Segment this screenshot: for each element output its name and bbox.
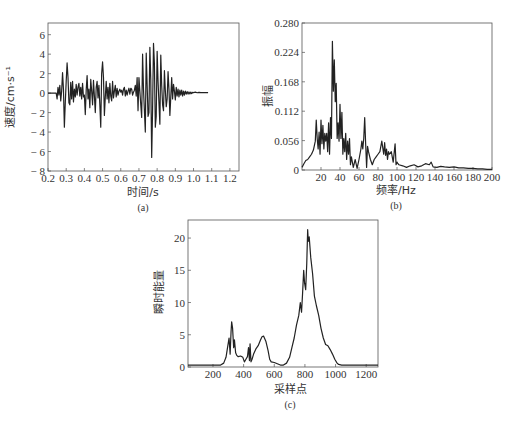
chart-b-ylabel: 振幅 xyxy=(261,85,275,107)
chart-c-xlabel: 采样点 xyxy=(274,382,307,396)
chart-a-x-tick-label: 0.5 xyxy=(96,172,110,184)
chart-c-caption: (c) xyxy=(284,399,295,411)
chart-b-x-tick-label: 60 xyxy=(354,171,366,183)
chart-a-series-velocity xyxy=(48,43,208,157)
chart-a: 0.20.30.40.50.60.70.80.91.01.11.2 6420− … xyxy=(3,23,239,214)
chart-c-y-tick-label: 0 xyxy=(180,361,186,373)
figure: 0.20.30.40.50.60.70.80.91.01.11.2 6420− … xyxy=(0,0,513,422)
chart-b-y-tick-label: 0.056 xyxy=(274,135,299,147)
chart-a-x-tick-label: 0.7 xyxy=(132,172,146,184)
chart-a-y-tick-label: 6 xyxy=(40,29,46,41)
chart-b-caption: (b) xyxy=(390,200,402,212)
chart-a-x-tick-label: 0.3 xyxy=(59,172,73,184)
chart-c-ylabel: 瞬时能量 xyxy=(152,270,166,314)
chart-b-x-tick-label: 80 xyxy=(373,171,385,183)
chart-b-x-tick-label: 120 xyxy=(408,171,425,183)
chart-c-x-tick-label: 600 xyxy=(266,368,283,380)
chart-b-x-tick-label: 160 xyxy=(446,171,463,183)
chart-c-x-tick-label: 400 xyxy=(235,368,252,380)
chart-a-x-tick-label: 1.2 xyxy=(223,172,237,184)
chart-a-x-tick-label: 0.4 xyxy=(78,172,92,184)
chart-b-x-tick-label: 200 xyxy=(484,171,501,183)
chart-c-y-tick-label: 10 xyxy=(174,297,186,309)
chart-c-x-tick-label: 1000 xyxy=(325,368,348,380)
chart-a-x-tick-label: 1.0 xyxy=(187,172,201,184)
chart-c-y-ticks: 05101520 xyxy=(174,232,191,373)
chart-b-x-tick-label: 140 xyxy=(427,171,444,183)
chart-a-xlabel: 时间/s xyxy=(127,186,159,199)
chart-a-ylabel: 速度/cm·s⁻¹ xyxy=(3,66,17,128)
chart-b-x-tick-label: 20 xyxy=(316,171,328,183)
chart-a-x-tick-label: 0.8 xyxy=(150,172,164,184)
chart-c-frame xyxy=(188,220,378,367)
chart-c: 20040060080010001200 05101520 采样点 瞬时能量 (… xyxy=(152,220,378,411)
chart-b-y-tick-label: 0.280 xyxy=(274,17,299,29)
chart-b: 20406080100120140160180200 00.0560.1120.… xyxy=(261,17,501,212)
chart-b-frame xyxy=(302,23,492,170)
chart-b-xlabel: 频率/Hz xyxy=(376,183,416,197)
chart-b-y-tick-label: 0.224 xyxy=(274,46,299,58)
chart-b-y-tick-label: 0.112 xyxy=(275,105,299,117)
chart-a-x-ticks: 0.20.30.40.50.60.70.80.91.01.11.2 xyxy=(41,168,237,184)
chart-b-x-tick-label: 40 xyxy=(335,171,347,183)
chart-c-y-tick-label: 20 xyxy=(174,232,186,244)
chart-a-y-tick-label: − 4 xyxy=(31,126,46,138)
chart-c-x-ticks: 20040060080010001200 xyxy=(205,364,378,380)
chart-a-y-tick-label: − 8 xyxy=(31,165,46,177)
chart-b-x-tick-label: 100 xyxy=(389,171,406,183)
chart-a-y-tick-label: − 6 xyxy=(31,146,46,158)
chart-b-x-tick-label: 180 xyxy=(465,171,482,183)
chart-a-y-tick-label: 2 xyxy=(40,68,46,80)
chart-a-y-tick-label: 4 xyxy=(40,48,46,60)
chart-b-y-ticks: 00.0560.1120.1680.2240.280 xyxy=(274,17,305,176)
chart-c-x-tick-label: 800 xyxy=(297,368,314,380)
chart-a-y-tick-label: 0 xyxy=(40,87,46,99)
chart-a-caption: (a) xyxy=(137,202,148,214)
chart-c-x-tick-label: 1200 xyxy=(355,368,378,380)
chart-b-y-tick-label: 0.168 xyxy=(274,76,299,88)
chart-a-x-tick-label: 1.1 xyxy=(205,172,219,184)
chart-c-y-tick-label: 5 xyxy=(180,329,186,341)
chart-b-y-tick-label: 0 xyxy=(294,164,300,176)
chart-b-series-amplitude xyxy=(302,41,492,169)
chart-a-y-tick-label: − 2 xyxy=(31,107,45,119)
chart-c-series-energy xyxy=(188,230,378,365)
chart-c-y-tick-label: 15 xyxy=(174,264,186,276)
chart-b-x-ticks: 20406080100120140160180200 xyxy=(316,167,501,183)
chart-a-x-tick-label: 0.9 xyxy=(168,172,182,184)
chart-a-x-tick-label: 0.6 xyxy=(114,172,128,184)
chart-c-x-tick-label: 200 xyxy=(205,368,222,380)
